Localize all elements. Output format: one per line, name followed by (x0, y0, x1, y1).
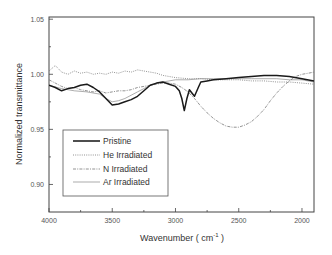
legend: Pristine He Irradiated N Irradiated Ar I… (63, 130, 168, 196)
y-axis-ticks: 1.051.000.950.90 (30, 16, 53, 188)
legend-label-he: He Irradiated (103, 150, 152, 160)
y-tick-label: 1.00 (30, 71, 44, 78)
legend-label-ar: Ar Irradiated (103, 177, 150, 187)
ftir-transmittance-chart: 1.051.000.950.90 40003500300025002000 Pr… (0, 0, 332, 255)
legend-label-pristine: Pristine (103, 136, 132, 146)
x-axis-title-close: ) (219, 233, 225, 243)
x-axis-ticks: 40003500300025002000 (41, 208, 310, 224)
y-axis-title: Normalized transmittance (14, 63, 24, 165)
x-tick-label: 2500 (231, 217, 247, 224)
y-tick-label: 0.90 (30, 181, 44, 188)
series-layer (49, 66, 314, 128)
x-tick-label: 4000 (41, 217, 57, 224)
x-axis-title-main: Wavenumber ( cm (140, 233, 213, 243)
legend-label-n: N Irradiated (103, 164, 148, 174)
x-axis-title: Wavenumber ( cm-1 ) (140, 232, 224, 243)
y-tick-label: 0.95 (30, 126, 44, 133)
x-tick-label: 2000 (294, 217, 310, 224)
series-pristine (49, 75, 314, 110)
x-tick-label: 3500 (104, 217, 120, 224)
y-tick-label: 1.05 (30, 16, 44, 23)
x-tick-label: 3000 (168, 217, 184, 224)
